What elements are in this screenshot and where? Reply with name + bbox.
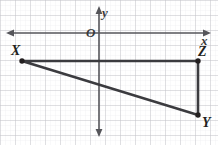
y-axis-label: y [102, 6, 108, 19]
coordinate-plane-canvas [0, 0, 218, 145]
vertex-dot-x [19, 58, 24, 63]
origin-label: O [86, 26, 95, 39]
vertex-dot-y [195, 112, 200, 117]
geometry-figure: X Z Y y x O [0, 0, 218, 145]
vertex-dot-z [195, 58, 200, 63]
vertex-label-x: X [11, 44, 20, 58]
vertex-label-y: Y [202, 116, 211, 130]
grid-layer [0, 0, 218, 145]
x-axis-label: x [201, 34, 208, 47]
